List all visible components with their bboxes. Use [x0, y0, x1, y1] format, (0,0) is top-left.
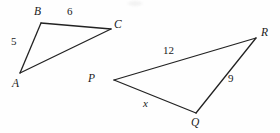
side-length-qr: 9: [228, 73, 234, 84]
side-length-bc: 6: [67, 6, 73, 17]
segment-rq: [196, 38, 256, 113]
vertex-label-r: R: [261, 27, 268, 39]
side-length-ab: 5: [11, 36, 17, 47]
triangle-pqr-outline: [114, 38, 256, 113]
triangles-drawing: [0, 0, 280, 133]
segment-pr: [114, 38, 256, 80]
vertex-label-c: C: [114, 19, 122, 31]
vertex-label-q: Q: [191, 117, 199, 129]
segment-bc: [41, 23, 111, 29]
segment-qp: [114, 80, 196, 113]
segment-ca: [20, 29, 111, 73]
geometry-figure: A B C 5 6 P Q R 12 9 x: [0, 0, 280, 133]
side-length-pq-unknown: x: [143, 98, 148, 109]
vertex-label-b: B: [34, 6, 41, 18]
vertex-label-a: A: [12, 78, 19, 90]
triangle-abc-outline: [20, 23, 111, 73]
side-length-pr: 12: [163, 45, 174, 56]
vertex-label-p: P: [88, 73, 95, 85]
segment-ab: [20, 23, 41, 73]
